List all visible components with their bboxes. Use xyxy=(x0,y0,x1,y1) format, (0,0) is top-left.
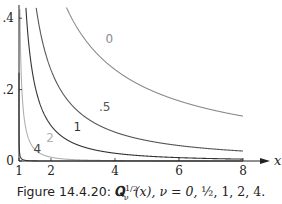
curve-label-4: 4 xyxy=(33,142,41,156)
y-tick-label: .2 xyxy=(3,83,14,97)
x-tick-label: 4 xyxy=(111,164,119,178)
curve-label-1: 1 xyxy=(73,120,81,134)
x-tick-label: 6 xyxy=(175,164,183,178)
caption-function: 𝑸1/2ν(x), ν = 0, ½, 1, 2, 4. xyxy=(115,184,265,199)
curve-label-2: 2 xyxy=(46,131,54,145)
y-tick-label: .4 xyxy=(3,11,15,25)
curve-nu-1 xyxy=(26,8,243,159)
labels: 124680.2.4x0.5124 xyxy=(3,11,282,178)
x-tick-label: 2 xyxy=(47,164,55,178)
figure-caption: Figure 14.4.20: 𝑸1/2ν(x), ν = 0, ½, 1, 2… xyxy=(0,184,282,202)
x-tick-label: 8 xyxy=(239,164,247,178)
y-tick-label: 0 xyxy=(6,154,14,168)
x-tick-label: 1 xyxy=(15,164,23,178)
curve-nu-4 xyxy=(19,73,243,161)
curve-label-0: 0 xyxy=(105,32,113,46)
curve-nu-.5 xyxy=(36,8,243,151)
curve-label-.5: .5 xyxy=(99,100,110,114)
caption-prefix: Figure 14.4.20: xyxy=(17,184,111,199)
plot-area: 124680.2.4x0.5124 xyxy=(0,0,282,184)
x-axis-arrow-icon xyxy=(260,158,270,164)
x-axis-label: x xyxy=(274,153,282,168)
curve-nu-0 xyxy=(67,8,243,117)
